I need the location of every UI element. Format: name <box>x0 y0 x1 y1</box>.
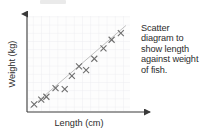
caption-line-3: show length <box>141 44 209 54</box>
caption-text-block: Scatter diagram to show length against w… <box>141 23 209 75</box>
caption-line-2: diagram to <box>141 33 209 43</box>
caption-line-5: of fish. <box>141 65 209 75</box>
caption-line-1: Scatter <box>141 23 209 33</box>
caption-line-4: against weight <box>141 54 209 64</box>
page-artifact-smudge <box>40 0 66 4</box>
x-axis-label: Length (cm) <box>54 118 103 128</box>
y-axis-label: Weight (kg) <box>7 41 17 88</box>
